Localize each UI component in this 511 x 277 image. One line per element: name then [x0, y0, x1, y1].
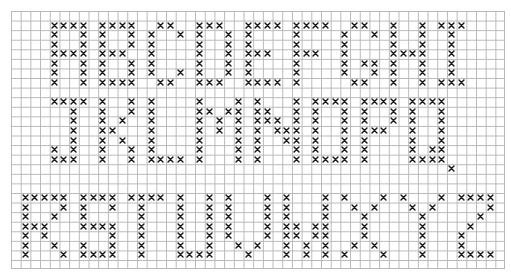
x-mark-icon	[292, 145, 302, 155]
x-mark-icon	[311, 231, 321, 241]
x-mark-icon	[243, 68, 253, 78]
x-mark-icon	[447, 49, 457, 59]
x-mark-icon	[427, 154, 437, 164]
x-mark-icon	[117, 49, 127, 59]
x-mark-icon	[389, 39, 399, 49]
x-mark-icon	[204, 241, 214, 251]
x-mark-icon	[340, 97, 350, 107]
x-mark-icon	[369, 68, 379, 78]
x-mark-icon	[195, 154, 205, 164]
x-mark-icon	[204, 202, 214, 212]
x-mark-icon	[146, 30, 156, 40]
x-mark-icon	[340, 154, 350, 164]
x-mark-icon	[418, 212, 428, 222]
x-mark-icon	[389, 20, 399, 30]
x-mark-icon	[437, 116, 447, 126]
x-mark-icon	[195, 135, 205, 145]
x-mark-icon	[292, 59, 302, 69]
x-mark-icon	[49, 78, 59, 88]
x-mark-icon	[340, 126, 350, 136]
x-mark-icon	[253, 116, 263, 126]
x-mark-icon	[292, 20, 302, 30]
x-mark-icon	[146, 193, 156, 203]
x-mark-icon	[88, 221, 98, 231]
x-mark-icon	[369, 202, 379, 212]
x-mark-icon	[369, 126, 379, 136]
x-mark-icon	[98, 78, 108, 88]
x-mark-icon	[20, 241, 30, 251]
x-mark-icon	[195, 39, 205, 49]
x-mark-icon	[59, 97, 69, 107]
x-mark-icon	[204, 250, 214, 260]
x-mark-icon	[418, 39, 428, 49]
x-mark-icon	[127, 30, 137, 40]
x-mark-icon	[234, 135, 244, 145]
x-mark-icon	[418, 250, 428, 260]
x-mark-icon	[476, 250, 486, 260]
x-mark-icon	[214, 78, 224, 88]
x-mark-icon	[369, 30, 379, 40]
x-mark-icon	[59, 250, 69, 260]
x-mark-icon	[437, 145, 447, 155]
x-mark-icon	[224, 106, 234, 116]
x-mark-icon	[234, 126, 244, 136]
x-mark-icon	[398, 49, 408, 59]
x-mark-icon	[127, 193, 137, 203]
x-mark-icon	[127, 68, 137, 78]
x-mark-icon	[79, 212, 89, 222]
x-mark-icon	[360, 154, 370, 164]
x-mark-icon	[79, 78, 89, 88]
x-mark-icon	[195, 20, 205, 30]
x-mark-icon	[49, 193, 59, 203]
x-mark-icon	[204, 193, 214, 203]
x-mark-icon	[243, 78, 253, 88]
x-mark-icon	[437, 97, 447, 107]
x-mark-icon	[175, 212, 185, 222]
x-mark-icon	[272, 116, 282, 126]
x-mark-icon	[79, 241, 89, 251]
x-mark-icon	[69, 126, 79, 136]
x-mark-icon	[282, 126, 292, 136]
x-mark-icon	[292, 231, 302, 241]
x-mark-icon	[59, 49, 69, 59]
x-mark-icon	[427, 145, 437, 155]
x-mark-icon	[321, 193, 331, 203]
x-mark-icon	[195, 30, 205, 40]
x-mark-icon	[456, 231, 466, 241]
x-mark-icon	[340, 250, 350, 260]
x-mark-icon	[292, 68, 302, 78]
x-mark-icon	[263, 231, 273, 241]
x-mark-icon	[69, 135, 79, 145]
x-mark-icon	[360, 78, 370, 88]
x-mark-icon	[214, 20, 224, 30]
x-mark-icon	[263, 106, 273, 116]
x-mark-icon	[282, 250, 292, 260]
x-mark-icon	[389, 78, 399, 88]
x-mark-icon	[49, 30, 59, 40]
x-mark-icon	[175, 193, 185, 203]
x-mark-icon	[108, 202, 118, 212]
x-mark-icon	[146, 154, 156, 164]
x-mark-icon	[175, 30, 185, 40]
x-mark-icon	[79, 193, 89, 203]
x-mark-icon	[321, 221, 331, 231]
x-mark-icon	[311, 20, 321, 30]
x-mark-icon	[98, 116, 108, 126]
x-mark-icon	[204, 212, 214, 222]
x-mark-icon	[418, 97, 428, 107]
x-mark-icon	[340, 135, 350, 145]
x-mark-icon	[234, 154, 244, 164]
x-mark-icon	[272, 126, 282, 136]
x-mark-icon	[360, 221, 370, 231]
x-mark-icon	[408, 49, 418, 59]
x-mark-icon	[408, 106, 418, 116]
x-mark-icon	[263, 116, 273, 126]
x-mark-icon	[301, 241, 311, 251]
x-mark-icon	[389, 68, 399, 78]
x-mark-icon	[282, 212, 292, 222]
x-mark-icon	[311, 106, 321, 116]
x-mark-icon	[321, 250, 331, 260]
x-mark-icon	[311, 145, 321, 155]
x-mark-icon	[224, 212, 234, 222]
x-mark-icon	[156, 78, 166, 88]
